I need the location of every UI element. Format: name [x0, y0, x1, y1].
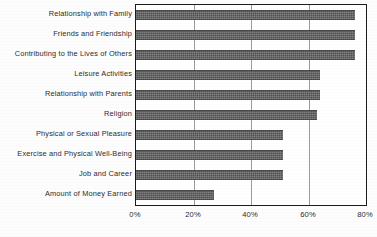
bar	[136, 170, 283, 180]
bar	[136, 110, 317, 120]
bar	[136, 50, 355, 60]
bar	[136, 30, 355, 40]
x-tick-label: 40%	[230, 209, 270, 221]
bar	[136, 190, 214, 200]
bar	[136, 70, 320, 80]
category-label: Contributing to the Lives of Others	[15, 44, 132, 64]
plot-inner	[136, 5, 366, 205]
x-tick-label: 0%	[115, 209, 155, 221]
category-label: Physical or Sexual Pleasure	[36, 124, 132, 144]
bar	[136, 150, 283, 160]
plot-area	[135, 4, 367, 206]
category-label: Relationship with Family	[49, 4, 132, 24]
x-tick-label: 60%	[288, 209, 328, 221]
bar-chart: Relationship with Family Friends and Fri…	[0, 0, 377, 237]
category-label: Friends and Friendship	[53, 24, 132, 44]
category-label: Job and Career	[79, 164, 132, 184]
bar	[136, 10, 355, 20]
category-label: Exercise and Physical Well-Being	[17, 144, 132, 164]
category-label: Relationship with Parents	[45, 84, 132, 104]
category-label: Religion	[104, 104, 132, 124]
category-label: Amount of Money Earned	[45, 184, 132, 204]
x-tick-label: 20%	[173, 209, 213, 221]
bar	[136, 90, 320, 100]
bar	[136, 130, 283, 140]
category-label: Leisure Activities	[74, 64, 132, 84]
value-axis-labels: 0%20%40%60%80%	[135, 209, 366, 223]
x-tick-label: 80%	[345, 209, 377, 221]
category-axis-labels: Relationship with Family Friends and Fri…	[0, 4, 132, 204]
